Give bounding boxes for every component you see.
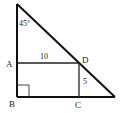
- point-label-d: D: [82, 55, 89, 65]
- point-label-a: A: [6, 59, 13, 69]
- measure-dc: 5: [83, 77, 87, 86]
- hypotenuse: [17, 4, 115, 97]
- angle-label: 45°: [19, 19, 30, 28]
- triangle-diagram: 45° A 10 D 5 B C: [0, 0, 123, 113]
- point-label-c: C: [75, 100, 81, 110]
- point-label-b: B: [9, 99, 15, 109]
- right-angle-marker: [17, 85, 29, 97]
- measure-ad: 10: [40, 52, 48, 61]
